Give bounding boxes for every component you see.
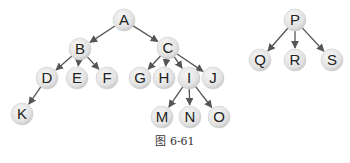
figure-caption: 图 6-61: [0, 132, 350, 148]
node-label: J: [209, 69, 217, 86]
node-o: O: [208, 106, 230, 128]
edge-c-g: [148, 55, 161, 69]
node-r: R: [284, 49, 306, 71]
edge-i-o: [195, 86, 212, 108]
edge-c-i: [174, 56, 182, 68]
node-m: M: [151, 106, 173, 128]
node-h: H: [153, 67, 175, 89]
node-a: A: [113, 9, 135, 31]
node-c: C: [157, 37, 179, 59]
edge-a-c: [132, 25, 157, 41]
node-p: P: [284, 9, 306, 31]
node-label: E: [72, 69, 82, 86]
node-label: D: [42, 69, 53, 86]
node-label: N: [185, 108, 196, 125]
edge-d-k: [29, 86, 41, 104]
node-label: R: [290, 51, 301, 68]
node-label: I: [187, 69, 191, 86]
edge-b-d: [56, 56, 72, 70]
edge-p-q: [268, 28, 289, 51]
node-d: D: [36, 67, 58, 89]
edges: [29, 25, 324, 107]
node-label: B: [75, 40, 85, 57]
nodes: ABCDEFGHIJKMNOPQRS: [11, 9, 343, 128]
node-label: S: [327, 51, 337, 68]
edge-b-f: [87, 56, 99, 69]
node-g: G: [129, 67, 151, 89]
node-label: K: [17, 105, 27, 122]
node-i: I: [178, 67, 200, 89]
node-b: B: [69, 38, 91, 60]
node-label: F: [102, 69, 111, 86]
node-label: H: [159, 69, 170, 86]
node-n: N: [179, 106, 201, 128]
edge-a-b: [90, 26, 116, 43]
edge-p-s: [302, 27, 324, 51]
node-k: K: [11, 103, 33, 125]
node-f: F: [96, 67, 118, 89]
edge-i-m: [169, 86, 183, 107]
node-e: E: [66, 67, 88, 89]
node-label: O: [213, 108, 225, 125]
node-s: S: [321, 49, 343, 71]
node-label: Q: [254, 51, 266, 68]
node-label: P: [290, 11, 300, 28]
node-q: Q: [249, 49, 271, 71]
node-j: J: [202, 67, 224, 89]
node-label: C: [163, 39, 174, 56]
node-label: G: [134, 69, 146, 86]
forest-diagram: ABCDEFGHIJKMNOPQRS 图 6-61: [0, 0, 350, 163]
node-label: A: [119, 11, 129, 28]
node-label: M: [156, 108, 169, 125]
